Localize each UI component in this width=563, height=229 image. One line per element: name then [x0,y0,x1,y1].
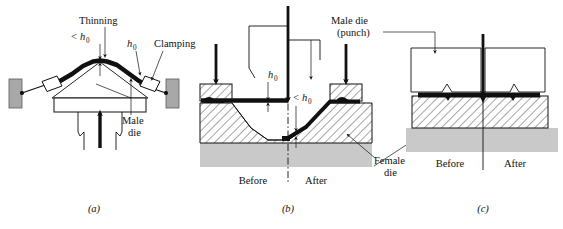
label-after-b: After [305,175,328,186]
male-die-a-base [54,98,146,112]
svg-text:<: < [293,92,299,103]
support-slab-b [200,143,372,167]
leader-h0-a [136,51,140,74]
label-before-b: Before [239,175,268,186]
svg-text:<: < [71,31,77,42]
label-male-die-a-line1: Male [122,115,144,126]
label-before-c: Before [436,158,465,169]
label-clamping: Clamping [154,38,196,49]
label-lt-h0-b: < h 0 [293,92,312,106]
leader-male-die-a-branch [96,84,131,98]
clamp-right [140,76,160,92]
label-male-die-a-line2: die [128,127,141,138]
label-h0-a: h 0 [127,38,137,52]
panel-c: Before After (c) [406,32,558,215]
svg-text:h: h [127,38,132,49]
label-after-c: After [504,158,527,169]
label-thinning: Thinning [79,15,118,26]
sheet-blank-a [49,61,148,86]
panel-a: Thinning < h 0 h 0 Clamping Male die [9,15,196,215]
svg-text:0: 0 [308,98,312,106]
clamp-left [42,76,62,92]
punch-outline-right-c [485,48,545,92]
figure-root: Thinning < h 0 h 0 Clamping Male die [0,0,563,229]
panel-caption-a: (a) [88,203,101,215]
panel-caption-b: (b) [282,203,295,215]
punch-outline-left-c [411,48,481,92]
svg-text:h: h [80,31,85,42]
leader-clamping [152,51,163,79]
die-shank-left [78,112,84,150]
punch-outline-right-b [288,40,320,60]
panel-caption-c: (c) [477,203,489,215]
label-h0-b: h 0 [268,69,278,83]
svg-text:0: 0 [133,44,137,52]
svg-text:0: 0 [274,75,278,83]
svg-text:0: 0 [86,37,90,45]
panel-b: Male die (punch) h 0 < h 0 Before After … [200,6,440,215]
label-male-die-b-line1: Male die [331,15,368,26]
svg-text:h: h [268,69,273,80]
female-die-c [412,96,548,128]
anchor-block-right [166,79,179,108]
sheet-bottom-b [282,136,290,141]
support-slab-c [406,128,558,152]
svg-text:h: h [302,92,307,103]
technical-figure: Thinning < h 0 h 0 Clamping Male die [0,0,563,229]
label-female-die-line1: Female [374,155,405,166]
label-lt-h0-a: < h 0 [71,31,90,45]
anchor-block-left [9,79,22,108]
label-female-die-line2: die [384,167,397,178]
label-male-die-b-line2: (punch) [337,27,370,39]
